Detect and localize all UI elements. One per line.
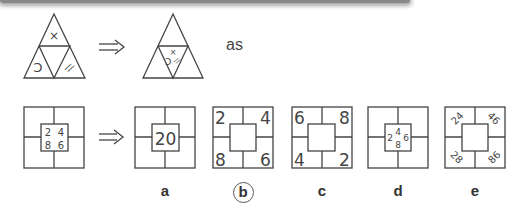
option-d-label[interactable]: d [383, 182, 413, 199]
number: 4 [294, 150, 305, 170]
option-b-label[interactable]: b [228, 182, 258, 203]
number: 20 [155, 129, 177, 149]
source-square [24, 107, 84, 168]
arc-symbol: C [33, 60, 42, 75]
number: 2 [339, 150, 350, 170]
number: 2 [387, 133, 393, 143]
relation-word: as [226, 36, 243, 54]
number: 8 [45, 140, 51, 151]
source-triangle [24, 14, 85, 78]
number: 6 [403, 133, 409, 143]
number: 2 [215, 108, 226, 128]
number: 6 [58, 140, 64, 151]
number: 6 [294, 108, 305, 128]
target-triangle [143, 14, 203, 78]
option-e-label[interactable]: e [460, 182, 490, 199]
option-c-label[interactable]: c [307, 182, 337, 199]
number: 8 [339, 108, 350, 128]
number: 4 [395, 127, 401, 137]
cross-symbol: × [49, 29, 59, 43]
option-d-figure [368, 107, 428, 168]
number: 4 [260, 108, 271, 128]
cross-symbol: × [170, 48, 177, 57]
number: 6 [260, 150, 271, 170]
number: 8 [215, 150, 226, 170]
puzzle-figure: × C // × C // 2 4 8 6 20 2 4 8 6 6 8 4 2… [0, 0, 529, 208]
double-slash-symbol: // [64, 61, 76, 74]
number: 4 [58, 127, 64, 138]
arc-symbol: C [165, 56, 171, 66]
arrow-icon [99, 40, 124, 54]
number: 2 [45, 127, 51, 138]
arrow-icon [99, 130, 123, 144]
option-a-label[interactable]: a [150, 182, 180, 199]
number: 8 [395, 140, 401, 150]
